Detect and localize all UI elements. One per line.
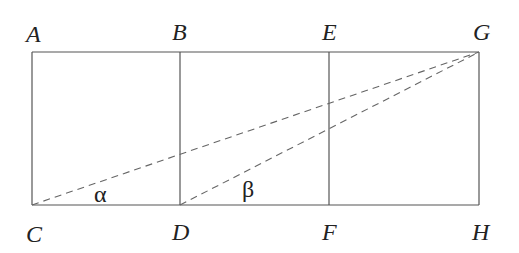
label-E: E [321,19,337,45]
label-B: B [172,19,187,45]
label-D: D [171,219,189,245]
label-G: G [473,19,490,45]
label-H: H [471,219,491,245]
label-A: A [24,21,41,47]
angle-beta-label: β [242,176,254,202]
angle-alpha-label: α [94,181,107,207]
label-C: C [26,221,43,247]
label-F: F [321,219,337,245]
geometry-diagram: A B E G C D F H α β [0,0,519,253]
